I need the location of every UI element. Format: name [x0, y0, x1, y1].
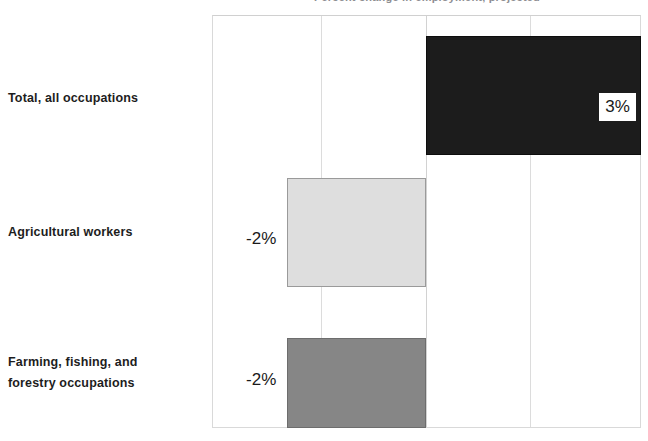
chart-row-farming-fishing-forestry: Farming, fishing, and forestry occupatio…	[0, 0, 648, 170]
value-label-farming-fishing-forestry: -2%	[240, 366, 283, 394]
category-label-line: forestry occupations	[8, 373, 204, 394]
category-label-farming-fishing-forestry: Farming, fishing, and forestry occupatio…	[8, 352, 204, 393]
category-label-line: Agricultural workers	[8, 222, 204, 243]
value-label-agricultural-workers: -2%	[240, 225, 283, 253]
bar-farming-fishing-forestry[interactable]	[287, 338, 426, 428]
category-label-agricultural-workers: Agricultural workers	[8, 222, 204, 243]
category-label-line: Farming, fishing, and	[8, 352, 204, 373]
bar-chart: Percent change in employment, projected …	[0, 0, 648, 441]
bar-agricultural-workers[interactable]	[287, 178, 426, 287]
